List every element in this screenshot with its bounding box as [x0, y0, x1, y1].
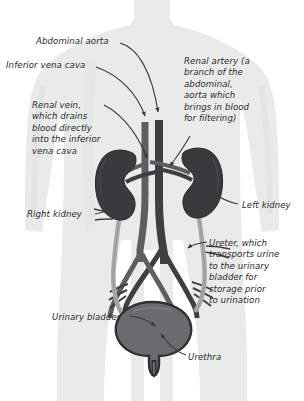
urinary-bladder-group: [116, 302, 191, 376]
label-urethra: Urethra: [188, 352, 221, 363]
label-right-kidney: Right kidney: [27, 209, 82, 220]
label-abdominal-aorta: Abdominal aorta: [36, 36, 109, 47]
label-renal-artery: Renal artery (a branch of the abdominal,…: [184, 56, 250, 124]
label-inferior-vena-cava: Inferior vena cava: [6, 60, 85, 71]
label-urinary-bladder: Urinary bladder: [52, 312, 120, 323]
urinary-system-diagram: Abdominal aorta Inferior vena cava Renal…: [0, 0, 304, 401]
label-ureter: Ureter, which transports urine to the ur…: [209, 238, 279, 306]
label-left-kidney: Left kidney: [242, 200, 291, 211]
label-renal-vein: Renal vein, which drains blood directly …: [32, 100, 100, 157]
